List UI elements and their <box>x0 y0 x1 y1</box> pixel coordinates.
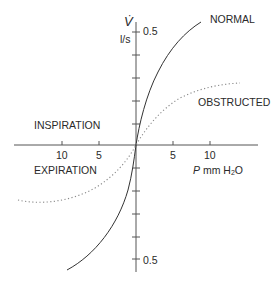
normal-curve <box>67 22 201 270</box>
obstructed-label: OBSTRUCTED <box>198 97 270 108</box>
inspiration-label: INSPIRATION <box>34 120 100 131</box>
y-axis-unit: l/s <box>120 34 131 45</box>
x-tick-left-5: 5 <box>96 150 102 161</box>
x-tick-left-10: 10 <box>56 150 68 161</box>
x-tick-right-5: 5 <box>170 150 176 161</box>
expiration-label: EXPIRATION <box>34 165 97 176</box>
pressure-flow-diagram <box>0 0 278 283</box>
x-axis-unit-a: mm H <box>203 164 231 176</box>
x-tick-right-10: 10 <box>204 150 216 161</box>
x-axis-symbol: P <box>193 164 200 176</box>
x-axis-label: P mm H2O <box>193 165 243 176</box>
y-tick-bottom: 0.5 <box>143 255 158 266</box>
normal-label: NORMAL <box>210 14 255 25</box>
y-axis-symbol: V <box>124 15 133 28</box>
x-axis-unit-b: O <box>235 164 243 176</box>
y-tick-top: 0.5 <box>143 26 158 37</box>
